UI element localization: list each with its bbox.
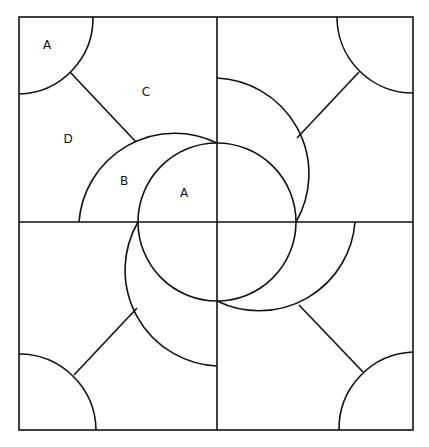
- spoke-bottom-left: [74, 308, 137, 375]
- crescent-arc-bottom-left: [125, 222, 217, 366]
- label-region-d: D: [63, 132, 72, 146]
- corner-arc-bottom-left: [19, 354, 96, 430]
- spoke-top-right: [297, 72, 359, 138]
- quilt-block-diagram: [0, 0, 429, 447]
- corner-arc-top-right: [337, 17, 413, 93]
- label-center-a: A: [180, 186, 188, 200]
- outer-border: [19, 17, 413, 430]
- spoke-top-left: [70, 72, 136, 142]
- label-crescent-b: B: [120, 174, 128, 188]
- spoke-bottom-right: [299, 305, 363, 372]
- label-region-c: C: [142, 85, 150, 99]
- corner-arc-top-left: [19, 17, 93, 94]
- crescent-arc-top-right: [217, 78, 309, 222]
- label-corner-a: A: [43, 38, 51, 52]
- corner-arc-bottom-right: [339, 352, 413, 430]
